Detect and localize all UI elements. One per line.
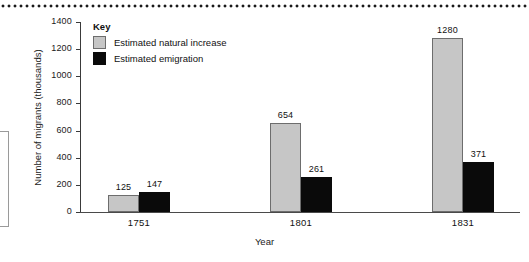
y-axis-line [80, 22, 81, 213]
bar-1801-emigration [301, 177, 332, 212]
bar-1831-natural-increase [432, 38, 463, 212]
emigration-swatch-icon [93, 52, 106, 65]
x-axis-category-label: 1801 [271, 217, 331, 228]
y-axis-tick [76, 212, 80, 213]
legend-item-natural-increase: Estimated natural increase [93, 36, 226, 49]
natural-increase-swatch-icon [93, 36, 106, 49]
y-axis-tick [76, 158, 80, 159]
plot-area: 0200400600800100012001400 Number of migr… [0, 0, 529, 262]
y-axis-tick [76, 131, 80, 132]
bar-1831-emigration [463, 162, 494, 212]
bar-value-label: 371 [457, 149, 500, 159]
x-axis-title: Year [0, 236, 529, 247]
legend-label-natural-increase: Estimated natural increase [114, 37, 226, 48]
y-axis-tick [76, 185, 80, 186]
chart-legend: Key Estimated natural increase Estimated… [93, 21, 226, 68]
bar-1751-emigration [139, 192, 170, 212]
y-axis-tick-label: 0 [36, 206, 72, 216]
bar-value-label: 261 [295, 164, 338, 174]
bar-value-label: 654 [264, 110, 307, 120]
y-axis-tick [76, 76, 80, 77]
bar-1751-natural-increase [108, 195, 139, 212]
bar-value-label: 147 [133, 179, 176, 189]
legend-title: Key [93, 21, 226, 32]
x-axis-category-label: 1831 [433, 217, 493, 228]
bar-value-label: 1280 [426, 25, 469, 35]
y-axis-tick [76, 49, 80, 50]
y-axis-title: Number of migrants (thousands) [32, 38, 43, 198]
legend-label-emigration: Estimated emigration [114, 53, 203, 64]
chart-figure: 0200400600800100012001400 Number of migr… [0, 0, 529, 262]
y-axis-tick [76, 22, 80, 23]
y-axis-tick [76, 103, 80, 104]
y-axis-tick-label: 1400 [36, 16, 72, 26]
legend-item-emigration: Estimated emigration [93, 52, 226, 65]
x-axis-category-label: 1751 [109, 217, 169, 228]
x-axis-line [80, 212, 520, 213]
